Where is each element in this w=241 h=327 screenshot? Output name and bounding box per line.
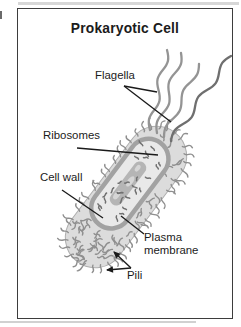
label-ribosomes: Ribosomes	[43, 129, 100, 142]
flagella-pointer-line-2	[124, 86, 171, 122]
prokaryotic-cell-figure: Prokaryotic Cell	[0, 0, 241, 327]
label-pili: Pili	[127, 269, 142, 282]
label-flagella: Flagella	[95, 69, 135, 82]
label-cell-wall: Cell wall	[40, 171, 82, 184]
cell-diagram	[0, 0, 241, 327]
label-plasma-membrane: Plasma membrane	[144, 231, 208, 256]
